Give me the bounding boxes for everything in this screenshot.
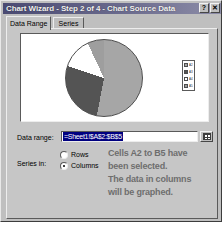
radio-rows-icon[interactable] <box>60 151 68 159</box>
chart-legend: A2 A3 A4 A5 <box>182 60 195 91</box>
legend-label: A4 <box>189 77 193 81</box>
annotation-line-1: Cells A2 to B5 have <box>108 147 220 160</box>
window-title: Chart Wizard - Step 2 of 4 - Chart Sourc… <box>3 3 175 14</box>
pie-shape <box>65 39 143 117</box>
range-select-icon <box>203 133 211 140</box>
data-range-label: Data range: <box>17 133 54 142</box>
radio-columns-label: Columns <box>71 161 99 170</box>
title-bar[interactable]: Chart Wizard - Step 2 of 4 - Chart Sourc… <box>3 3 221 14</box>
series-in-label: Series in: <box>17 160 46 167</box>
radio-option-rows[interactable]: Rows <box>60 149 99 160</box>
chart-wizard-dialog: Chart Wizard - Step 2 of 4 - Chart Sourc… <box>0 0 222 222</box>
legend-swatch-icon <box>184 84 188 88</box>
annotation-callout: Cells A2 to B5 have been selected. The d… <box>108 147 220 199</box>
radio-option-columns[interactable]: Columns <box>60 160 99 171</box>
tab-page-data-range: A2 A3 A4 A5 Data range: =Sheet1!$A$ <box>6 28 218 219</box>
series-in-group: Series in: <box>17 152 46 170</box>
legend-item: A5 <box>184 83 193 89</box>
annotation-line-3: The data in columns <box>108 173 220 186</box>
legend-swatch-icon <box>184 63 188 67</box>
annotation-line-4: will be graphed. <box>108 186 220 199</box>
chart-preview-panel: A2 A3 A4 A5 <box>20 33 209 122</box>
close-button[interactable]: ✕ <box>210 3 220 13</box>
legend-item: A3 <box>184 69 193 75</box>
legend-swatch-icon <box>184 70 188 74</box>
legend-item: A2 <box>184 62 193 68</box>
pie-chart <box>65 39 143 117</box>
series-in-radio-group: Rows Columns <box>60 149 99 171</box>
annotation-line-2: been selected. <box>108 160 220 173</box>
title-bar-buttons: ? ✕ <box>199 3 220 13</box>
legend-label: A5 <box>189 84 193 88</box>
tab-data-range[interactable]: Data Range <box>6 16 51 30</box>
help-button[interactable]: ? <box>199 3 209 13</box>
radio-rows-label: Rows <box>71 150 89 159</box>
legend-label: A2 <box>189 63 193 67</box>
legend-label: A3 <box>189 70 193 74</box>
data-range-value: =Sheet1!$A$2:$B$5 <box>63 132 123 141</box>
legend-swatch-icon <box>184 77 188 81</box>
data-range-input[interactable]: =Sheet1!$A$2:$B$5 <box>61 131 198 142</box>
radio-columns-icon[interactable] <box>60 162 68 170</box>
range-select-button[interactable] <box>200 131 213 142</box>
data-range-row: Data range: =Sheet1!$A$2:$B$5 <box>17 131 213 144</box>
legend-item: A4 <box>184 76 193 82</box>
